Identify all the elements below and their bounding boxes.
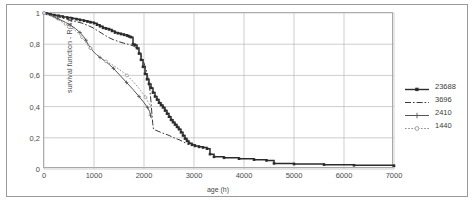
series-curves: [44, 13, 394, 169]
series-marker: [66, 16, 69, 19]
series-marker: [198, 146, 201, 149]
y-tick-label: 0: [36, 165, 40, 174]
x-tick-label: 0: [42, 171, 46, 180]
x-tick-label: 3000: [186, 171, 203, 180]
series-marker: [71, 17, 74, 20]
legend-item-23688[interactable]: 23688: [404, 80, 466, 93]
legend-swatch-icon: [404, 81, 430, 92]
series-marker: [176, 126, 179, 129]
series-marker: [191, 144, 194, 147]
legend-item-3696[interactable]: 3696: [404, 93, 466, 106]
series-marker: [79, 19, 82, 22]
series-marker: [166, 112, 169, 115]
legend-item-2410[interactable]: 2410: [404, 106, 466, 119]
legend-label: 1440: [435, 121, 452, 130]
series-marker: [182, 134, 185, 137]
series-marker: [174, 123, 177, 126]
series-marker: [184, 137, 187, 140]
series-marker: [393, 165, 396, 168]
series-marker: [202, 146, 205, 149]
series-marker: [323, 163, 326, 166]
x-tick-label: 7000: [386, 171, 403, 180]
legend-label: 2410: [435, 108, 452, 117]
series-marker: [223, 156, 226, 159]
series-marker: [120, 33, 123, 36]
series-marker: [96, 23, 99, 26]
series-marker: [86, 20, 89, 23]
series-marker: [213, 156, 216, 159]
series-line-23688: [44, 13, 394, 166]
series-marker: [144, 96, 147, 99]
series-marker: [273, 162, 276, 165]
series-marker: [162, 106, 165, 109]
x-tick-label: 6000: [336, 171, 353, 180]
y-tick-label: 0,8: [30, 40, 40, 49]
series-marker: [105, 60, 108, 63]
series-marker: [293, 163, 296, 166]
x-tick-label: 4000: [236, 171, 253, 180]
chart-legend: 23688369624101440: [404, 80, 466, 132]
series-marker: [209, 153, 212, 156]
y-tick-label: 1: [36, 9, 40, 18]
survival-function-chart: survival function - R(Xz) 00,20,40,60,81…: [0, 0, 475, 205]
series-marker: [265, 159, 268, 162]
series-marker: [168, 115, 171, 118]
series-marker: [108, 28, 111, 31]
series-marker: [172, 121, 175, 124]
series-marker: [75, 18, 78, 21]
series-marker: [154, 95, 157, 98]
series-marker: [178, 128, 181, 131]
series-marker: [81, 36, 84, 39]
series-marker: [140, 59, 143, 62]
series-marker: [62, 16, 65, 19]
series-marker: [170, 119, 173, 122]
plot-area: survival function - R(Xz) 00,20,40,60,81…: [43, 12, 393, 168]
y-tick-label: 0,2: [30, 133, 40, 142]
series-marker: [123, 34, 126, 37]
series-line-2410: [44, 13, 151, 118]
legend-label: 23688: [435, 82, 456, 91]
series-marker: [89, 21, 92, 24]
series-marker: [152, 91, 155, 94]
series-marker: [180, 131, 183, 134]
x-tick-label: 1000: [86, 171, 103, 180]
series-line-1440: [44, 13, 152, 109]
series-marker: [102, 27, 105, 30]
series-marker: [156, 98, 159, 101]
series-marker: [64, 23, 67, 26]
series-marker: [186, 140, 189, 143]
series-marker: [83, 20, 86, 23]
series-marker: [160, 104, 163, 107]
series-marker: [117, 32, 120, 35]
series-marker: [253, 158, 256, 161]
series-marker: [206, 147, 209, 150]
series-marker: [111, 30, 114, 33]
y-tick-label: 0,4: [30, 102, 40, 111]
series-marker: [144, 73, 147, 76]
series-marker: [93, 22, 96, 25]
x-tick-label: 2000: [136, 171, 153, 180]
legend-swatch-icon: [404, 94, 430, 105]
legend-item-1440[interactable]: 1440: [404, 119, 466, 132]
series-marker: [130, 36, 133, 39]
series-marker: [158, 101, 161, 104]
series-marker: [114, 31, 117, 34]
series-marker: [43, 12, 46, 15]
x-tick-label: 5000: [286, 171, 303, 180]
series-marker: [142, 66, 145, 69]
legend-label: 3696: [435, 95, 452, 104]
series-marker: [353, 164, 356, 167]
legend-swatch-icon: [404, 107, 430, 118]
y-tick-label: 0,6: [30, 71, 40, 80]
series-marker: [164, 109, 167, 112]
series-marker: [89, 47, 92, 50]
series-marker: [194, 145, 197, 148]
series-marker: [105, 27, 108, 30]
series-marker: [99, 25, 102, 28]
series-marker: [126, 74, 129, 77]
series-marker: [148, 83, 151, 86]
legend-swatch-icon: [404, 120, 430, 131]
series-marker: [238, 157, 241, 160]
x-axis-title: age (h): [43, 186, 393, 193]
